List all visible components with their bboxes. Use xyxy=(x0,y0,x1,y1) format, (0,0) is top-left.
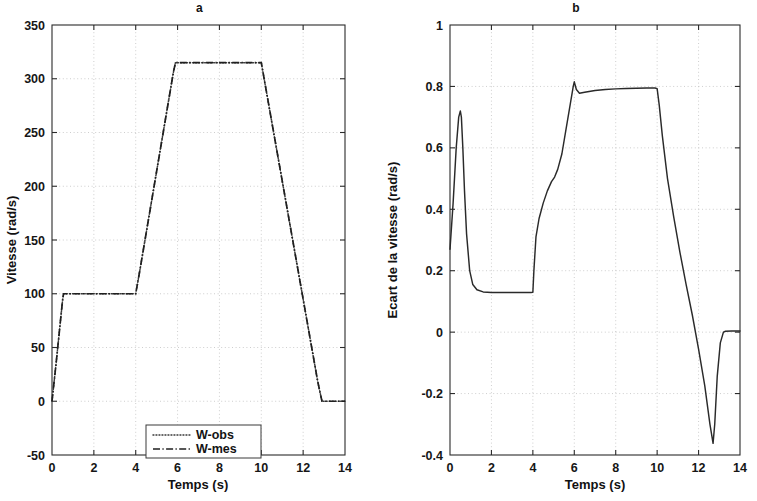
y-tick-label: -50 xyxy=(27,449,45,463)
y-tick-label: 0 xyxy=(436,326,443,340)
x-tick-label: 0 xyxy=(447,461,454,475)
y-tick-label: 350 xyxy=(24,19,45,33)
y-tick-label: 0.6 xyxy=(426,141,443,155)
x-tick-label: 4 xyxy=(529,461,536,475)
panel-b-x-tick-labels: 02468101214 xyxy=(447,461,747,475)
y-tick-label: 250 xyxy=(24,126,45,140)
y-tick-label: -0.4 xyxy=(421,449,443,463)
panel-b-svg: -0.4-0.200.20.40.60.81 02468101214 Temps… xyxy=(379,0,757,501)
x-tick-label: 8 xyxy=(612,461,619,475)
y-tick-label: 100 xyxy=(24,287,45,301)
x-tick-label: 14 xyxy=(733,461,747,475)
chart-panel-a: a -50050100150200250300350 02468101214 T… xyxy=(0,0,379,501)
y-tick-label: -0.2 xyxy=(421,387,443,401)
panel-a-svg: -50050100150200250300350 02468101214 Tem… xyxy=(0,0,379,501)
figure-container: a -50050100150200250300350 02468101214 T… xyxy=(0,0,757,501)
panel-b-yaxis-title: Ecart de la vitesse (rad/s) xyxy=(385,162,400,319)
x-tick-label: 14 xyxy=(338,461,352,475)
x-tick-label: 12 xyxy=(296,461,310,475)
y-tick-label: 200 xyxy=(24,180,45,194)
y-tick-label: 0.2 xyxy=(426,264,443,278)
panel-b-title: b xyxy=(387,1,757,15)
y-tick-label: 50 xyxy=(31,341,45,355)
series-ecart-vitesse xyxy=(450,82,740,444)
x-tick-label: 10 xyxy=(254,461,268,475)
x-tick-label: 4 xyxy=(132,461,139,475)
panel-b-gridlines xyxy=(450,25,740,455)
y-tick-label: 1 xyxy=(436,19,443,33)
series-w-obs xyxy=(52,63,345,402)
legend-label-w-obs: W-obs xyxy=(196,428,234,442)
x-tick-label: 12 xyxy=(692,461,706,475)
panel-a-gridlines xyxy=(52,25,345,455)
y-tick-label: 0 xyxy=(38,395,45,409)
panel-b-y-tick-labels: -0.4-0.200.20.40.60.81 xyxy=(421,19,443,463)
x-tick-label: 2 xyxy=(90,461,97,475)
panel-a-yaxis-title: Vitesse (rad/s) xyxy=(4,196,19,285)
panel-a-x-tick-labels: 02468101214 xyxy=(49,461,352,475)
x-tick-label: 2 xyxy=(488,461,495,475)
x-tick-label: 0 xyxy=(49,461,56,475)
panel-b-tickmarks xyxy=(450,25,740,455)
y-tick-label: 150 xyxy=(24,234,45,248)
panel-b-axes-box xyxy=(450,25,740,455)
panel-a-legend[interactable]: W-obs W-mes xyxy=(146,425,261,458)
x-tick-label: 8 xyxy=(216,461,223,475)
panel-a-y-tick-labels: -50050100150200250300350 xyxy=(24,19,45,463)
x-tick-label: 6 xyxy=(571,461,578,475)
legend-label-w-mes: W-mes xyxy=(196,442,237,456)
panel-a-title: a xyxy=(10,1,389,15)
series-w-mes xyxy=(52,63,345,402)
y-tick-label: 0.4 xyxy=(426,203,443,217)
x-tick-label: 6 xyxy=(174,461,181,475)
chart-panel-b: b -0.4-0.200.20.40.60.81 02468101214 Tem… xyxy=(379,0,757,501)
x-tick-label: 10 xyxy=(650,461,664,475)
y-tick-label: 0.8 xyxy=(426,80,443,94)
panel-a-xaxis-title: Temps (s) xyxy=(168,477,228,492)
panel-b-xaxis-title: Temps (s) xyxy=(565,477,625,492)
y-tick-label: 300 xyxy=(24,72,45,86)
